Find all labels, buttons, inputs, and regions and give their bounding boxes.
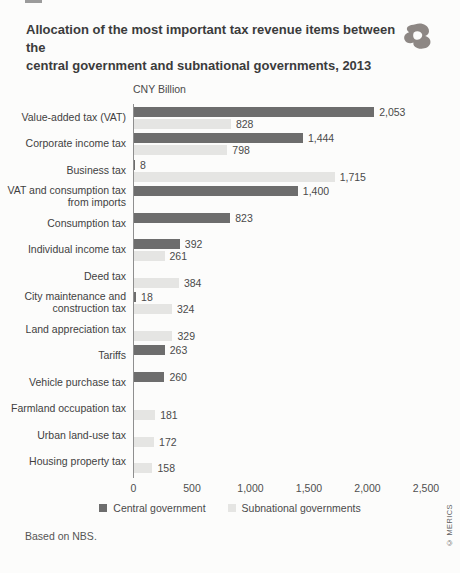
chart-row: Value-added tax (VAT)2,053828	[0, 104, 460, 131]
bar-value-label: 392	[185, 238, 203, 250]
bar-subnational	[134, 251, 165, 261]
bar-subnational	[134, 119, 231, 129]
chart-row: Land appreciation tax329	[0, 316, 460, 343]
x-axis-tick-label: 500	[183, 482, 201, 494]
bar-central	[134, 160, 135, 170]
chart-panel: Allocation of the most important tax rev…	[0, 0, 460, 573]
x-axis-tick-label: 2,500	[413, 482, 439, 494]
bar-value-label: 324	[177, 303, 195, 315]
unit-label: CNY Billion	[133, 83, 186, 95]
x-axis-tick-label: 0	[131, 482, 137, 494]
chart-row: Tariffs263	[0, 343, 460, 370]
bar-central	[134, 133, 303, 143]
bar-value-label: 263	[170, 344, 188, 356]
category-bars: 260	[134, 369, 460, 396]
chart-row: Farmland occupation tax181	[0, 396, 460, 423]
category-bars: 1,444798	[134, 131, 460, 158]
chart-row: Housing property tax158	[0, 449, 460, 476]
bar-value-label: 384	[184, 277, 202, 289]
category-label: Vehicle purchase tax	[0, 377, 126, 389]
bar-central	[134, 372, 164, 382]
legend-label-subnational: Subnational governments	[242, 502, 361, 514]
bar-subnational	[134, 331, 172, 341]
bar-subnational	[134, 437, 154, 447]
x-axis-tick-label: 1,000	[237, 482, 263, 494]
category-bars: 1,400	[134, 184, 460, 211]
bar-value-label: 158	[157, 462, 175, 474]
bar-value-label: 1,400	[303, 185, 329, 197]
cropped-text-artifact	[25, 0, 42, 3]
bar-value-label: 823	[235, 212, 253, 224]
category-bars: 181	[134, 396, 460, 423]
bar-value-label: 181	[160, 409, 178, 421]
category-bars: 263	[134, 343, 460, 370]
bar-value-label: 18	[141, 291, 153, 303]
legend-item-subnational: Subnational governments	[228, 502, 361, 514]
category-bars: 2,053828	[134, 104, 460, 131]
bar-central	[134, 292, 136, 302]
category-bars: 158	[134, 449, 460, 476]
chart-row: Corporate income tax1,444798	[0, 131, 460, 158]
category-label: Value-added tax (VAT)	[0, 112, 126, 124]
bar-subnational	[134, 145, 227, 155]
bar-value-label: 260	[169, 371, 187, 383]
chart-title-line2: central government and subnational gover…	[26, 57, 401, 75]
category-label: VAT and consumption taxfrom imports	[0, 185, 126, 208]
bar-value-label: 8	[140, 159, 146, 171]
bar-value-label: 1,715	[340, 171, 366, 183]
bar-value-label: 261	[170, 250, 188, 262]
category-bars: 384	[134, 263, 460, 290]
category-label: City maintenance andconstruction tax	[0, 291, 126, 314]
category-label: Housing property tax	[0, 456, 126, 468]
bar-subnational	[134, 304, 172, 314]
category-label: Individual income tax	[0, 244, 126, 256]
chart-title-line1: Allocation of the most important tax rev…	[26, 21, 401, 57]
bar-subnational	[134, 172, 335, 182]
source-note: Based on NBS.	[25, 530, 97, 542]
category-label: Urban land-use tax	[0, 430, 126, 442]
central-government-swatch-icon	[99, 504, 107, 512]
bar-subnational	[134, 278, 179, 288]
category-label: Business tax	[0, 165, 126, 177]
bar-value-label: 798	[232, 144, 250, 156]
chart-row: VAT and consumption taxfrom imports1,400	[0, 184, 460, 211]
bar-central	[134, 239, 180, 249]
category-bars: 172	[134, 422, 460, 449]
chart-title: Allocation of the most important tax rev…	[26, 21, 401, 75]
chart-row: City maintenance andconstruction tax1832…	[0, 290, 460, 317]
category-label: Farmland occupation tax	[0, 403, 126, 415]
category-bars: 329	[134, 316, 460, 343]
category-bars: 18324	[134, 290, 460, 317]
x-axis-tick-label: 1,500	[296, 482, 322, 494]
bar-value-label: 828	[236, 118, 254, 130]
category-label: Tariffs	[0, 350, 126, 362]
bar-value-label: 172	[159, 436, 177, 448]
copyright-note: © MERICS	[445, 504, 454, 547]
category-label: Land appreciation tax	[0, 324, 126, 336]
bar-central	[134, 107, 374, 117]
bar-value-label: 329	[177, 330, 195, 342]
chart-row: Deed tax384	[0, 263, 460, 290]
category-bars: 81,715	[134, 157, 460, 184]
category-label: Corporate income tax	[0, 138, 126, 150]
x-axis-tick-label: 2,000	[354, 482, 380, 494]
bar-value-label: 2,053	[379, 106, 405, 118]
category-bars: 823	[134, 210, 460, 237]
legend: Central government Subnational governmen…	[0, 502, 460, 514]
subnational-governments-swatch-icon	[228, 504, 236, 512]
category-label: Consumption tax	[0, 218, 126, 230]
bar-subnational	[134, 410, 155, 420]
chart-row: Business tax81,715	[0, 157, 460, 184]
category-label: Deed tax	[0, 271, 126, 283]
merics-logo-icon	[402, 22, 433, 50]
legend-label-central: Central government	[113, 502, 205, 514]
bar-central	[134, 213, 230, 223]
bar-value-label: 1,444	[308, 132, 334, 144]
chart-rows: Value-added tax (VAT)2,053828Corporate i…	[0, 104, 460, 475]
legend-item-central: Central government	[99, 502, 205, 514]
chart-row: Individual income tax392261	[0, 237, 460, 264]
chart-row: Vehicle purchase tax260	[0, 369, 460, 396]
bar-chart: Value-added tax (VAT)2,053828Corporate i…	[0, 104, 460, 496]
chart-row: Urban land-use tax172	[0, 422, 460, 449]
bar-central	[134, 186, 298, 196]
